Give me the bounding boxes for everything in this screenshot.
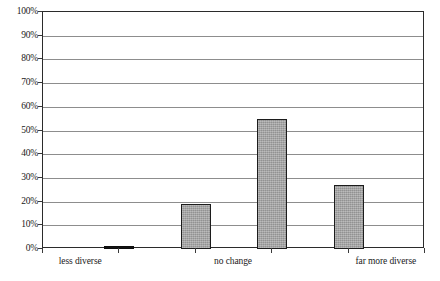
x-tick-label: far more diverse <box>355 256 416 266</box>
x-tick-mark <box>424 248 425 253</box>
y-tick-label: 20% <box>0 196 38 206</box>
x-tick-label: no change <box>214 256 252 266</box>
y-tick-mark <box>38 201 42 202</box>
y-tick-mark <box>38 11 42 12</box>
y-tick-mark <box>38 35 42 36</box>
y-tick-mark <box>38 82 42 83</box>
x-tick-label: less diverse <box>59 256 102 266</box>
y-tick-label: 70% <box>0 77 38 87</box>
bar-chart: 0%10%20%30%40%50%60%70%80%90%100% less d… <box>0 0 440 281</box>
y-tick-mark <box>38 153 42 154</box>
y-tick-label: 60% <box>0 101 38 111</box>
y-tick-label: 90% <box>0 30 38 40</box>
x-tick-mark <box>348 248 349 253</box>
x-tick-mark <box>118 248 119 253</box>
y-tick-mark <box>38 224 42 225</box>
y-tick-label: 30% <box>0 172 38 182</box>
y-tick-label: 80% <box>0 53 38 63</box>
y-tick-label: 10% <box>0 219 38 229</box>
y-tick-mark <box>38 130 42 131</box>
y-axis: 0%10%20%30%40%50%60%70%80%90%100% <box>0 11 440 248</box>
y-tick-mark <box>38 58 42 59</box>
y-tick-label: 0% <box>0 243 38 253</box>
y-tick-mark <box>38 177 42 178</box>
y-tick-mark <box>38 106 42 107</box>
y-tick-label: 50% <box>0 125 38 135</box>
x-tick-mark <box>42 248 43 253</box>
x-tick-mark <box>195 248 196 253</box>
y-tick-label: 100% <box>0 6 38 16</box>
y-tick-label: 40% <box>0 148 38 158</box>
x-tick-mark <box>271 248 272 253</box>
